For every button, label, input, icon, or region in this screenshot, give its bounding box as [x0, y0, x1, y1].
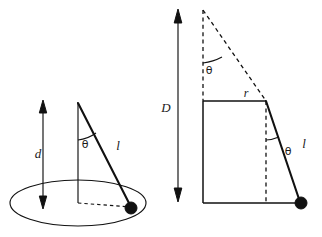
left-panel-group: d θ l: [10, 100, 146, 226]
pendulum-bob-left: [125, 202, 137, 214]
depth-arrow-head-down: [39, 196, 46, 209]
right-panel-group: D θ r θ l: [160, 9, 307, 209]
pendulum-figure: d θ l: [0, 0, 322, 237]
apex-slant-dashed: [203, 10, 266, 101]
label-l-left: l: [116, 138, 120, 153]
label-l-right: l: [302, 136, 306, 151]
label-theta-apex: θ: [206, 64, 213, 77]
depth-arrow-head-up: [39, 100, 46, 113]
pendulum-string-right: [266, 101, 300, 202]
label-D: D: [160, 100, 171, 115]
total-depth-arrow-head-up: [174, 9, 182, 23]
pendulum-bob-right: [295, 197, 307, 209]
label-theta-left: θ: [82, 138, 89, 151]
label-r: r: [244, 86, 249, 100]
pendulum-string-left: [78, 103, 131, 207]
label-d: d: [35, 146, 42, 161]
total-depth-arrow-head-down: [174, 188, 182, 202]
bob-angle-arc: [266, 137, 279, 140]
radius-dashed-left: [78, 203, 131, 207]
label-theta-bob: θ: [285, 145, 292, 158]
apex-angle-arc: [203, 57, 222, 63]
depth-arrow-D: [174, 9, 182, 202]
figure-root: d θ l: [0, 0, 322, 237]
